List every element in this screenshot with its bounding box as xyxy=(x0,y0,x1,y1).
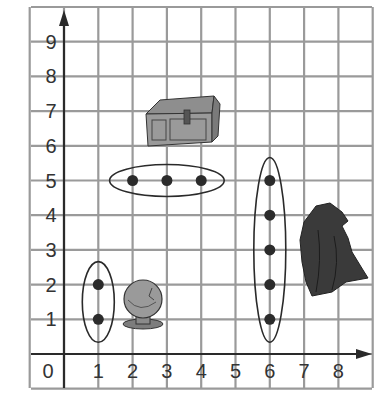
y-tick-label: 2 xyxy=(45,274,56,296)
data-point xyxy=(93,279,104,290)
data-point xyxy=(196,175,207,186)
y-axis-arrow-icon xyxy=(59,10,69,26)
data-point xyxy=(264,314,275,325)
x-tick-label: 8 xyxy=(333,360,344,382)
y-tick-label: 3 xyxy=(45,239,56,261)
data-point xyxy=(264,279,275,290)
x-tick-label: 6 xyxy=(264,360,275,382)
y-tick-label: 6 xyxy=(45,135,56,157)
data-point xyxy=(264,210,275,221)
tick-labels: 012345678123456789 xyxy=(42,31,344,382)
crystal-ball-icon xyxy=(123,280,163,329)
y-tick-label: 7 xyxy=(45,100,56,122)
x-tick-label: 3 xyxy=(161,360,172,382)
y-tick-label: 5 xyxy=(45,170,56,192)
y-tick-label: 1 xyxy=(45,308,56,330)
data-point xyxy=(93,314,104,325)
x-tick-label: 2 xyxy=(127,360,138,382)
grid-lines xyxy=(30,7,373,389)
x-tick-label: 7 xyxy=(299,360,310,382)
data-point xyxy=(264,244,275,255)
x-tick-label: 1 xyxy=(93,360,104,382)
y-tick-label: 4 xyxy=(45,204,56,226)
y-tick-label: 8 xyxy=(45,65,56,87)
y-tick-label: 9 xyxy=(45,31,56,53)
coordinate-grid-diagram: 012345678123456789 xyxy=(0,0,387,420)
x-tick-label: 5 xyxy=(230,360,241,382)
origin-label: 0 xyxy=(42,360,53,382)
treasure-chest-icon xyxy=(146,96,220,146)
data-point xyxy=(264,175,275,186)
data-point xyxy=(127,175,138,186)
x-tick-label: 4 xyxy=(196,360,207,382)
data-point xyxy=(161,175,172,186)
x-axis-arrow-icon xyxy=(356,349,372,359)
